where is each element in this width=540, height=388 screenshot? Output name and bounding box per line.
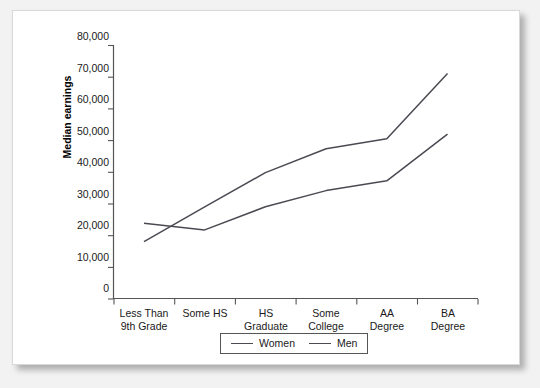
x-tick-label-line1: Some (291, 307, 361, 320)
legend-line-icon (231, 343, 253, 344)
x-tick-label-aa-degree: AA Degree (352, 307, 422, 333)
series-line-men (144, 73, 448, 241)
x-tick-label-line1: BA (413, 307, 483, 320)
x-tick-label-some-college: Some College (291, 307, 361, 333)
x-tick-label-some-hs: Some HS (170, 307, 240, 320)
y-tick-marks (108, 46, 114, 300)
x-tick-label-line2: Degree (413, 320, 483, 333)
x-tick-label-less-than-9th-grade: Less Than 9th Grade (109, 307, 179, 333)
legend-line-icon (309, 343, 331, 344)
x-tick-label-line1: AA (352, 307, 422, 320)
chart-legend: Women Men (220, 333, 368, 354)
x-tick-label-line2: College (291, 320, 361, 333)
x-tick-label-line1: Some HS (170, 307, 240, 320)
legend-item-women: Women (231, 337, 295, 349)
figure-card: Median earnings 80,000 70,000 60,000 50,… (12, 10, 520, 365)
x-tick-label-ba-degree: BA Degree (413, 307, 483, 333)
legend-item-men: Men (309, 337, 357, 349)
x-tick-label-line2: 9th Grade (109, 320, 179, 333)
chart-area: Median earnings 80,000 70,000 60,000 50,… (13, 11, 521, 366)
x-tick-label-line2: Degree (352, 320, 422, 333)
legend-label: Women (259, 337, 295, 349)
legend-label: Men (337, 337, 357, 349)
x-tick-label-line1: Less Than (109, 307, 179, 320)
x-tick-marks (114, 299, 478, 305)
